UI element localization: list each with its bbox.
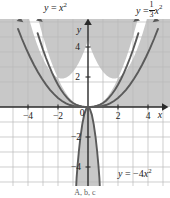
eq-neg4-lhs: y bbox=[118, 168, 122, 179]
ytick-label--4: −4 bbox=[71, 162, 81, 172]
parabola-figure: −4 −2 2 4 4 2 −2 −4 0 x y y = x2 y =13x2… bbox=[0, 0, 170, 198]
eq-neg4-coefficient: −4 bbox=[133, 168, 144, 179]
equation-label-x-squared: y = x2 bbox=[44, 3, 67, 13]
xtick-label-4: 4 bbox=[146, 111, 151, 121]
figure-caption: A, b, c bbox=[0, 188, 170, 198]
eq-neg4-exponent: 2 bbox=[148, 167, 151, 174]
eq-neg4-equals: = bbox=[125, 168, 131, 179]
eq-xsq-equals: = bbox=[51, 2, 57, 13]
eq-xsq-lhs: y bbox=[44, 2, 48, 13]
xtick-label--4: −4 bbox=[23, 111, 33, 121]
origin-label: 0 bbox=[80, 108, 85, 118]
equation-label-one-third-x-squared: y =13x2 bbox=[136, 1, 162, 19]
ytick-label--2: −2 bbox=[71, 132, 81, 142]
eq-third-exponent: 2 bbox=[159, 3, 162, 10]
equation-label-minus-four-x-squared: y = −4x2 bbox=[118, 169, 152, 179]
xtick-label-2: 2 bbox=[116, 111, 121, 121]
ytick-label-2: 2 bbox=[75, 72, 80, 82]
plot-body bbox=[0, 17, 170, 190]
eq-third-lhs: y bbox=[136, 5, 140, 16]
ytick-label-4: 4 bbox=[75, 42, 80, 52]
y-axis-label: y bbox=[76, 24, 82, 35]
x-axis-label: x bbox=[157, 109, 163, 120]
eq-xsq-exponent: 2 bbox=[64, 1, 67, 8]
xtick-label--2: −2 bbox=[53, 111, 63, 121]
